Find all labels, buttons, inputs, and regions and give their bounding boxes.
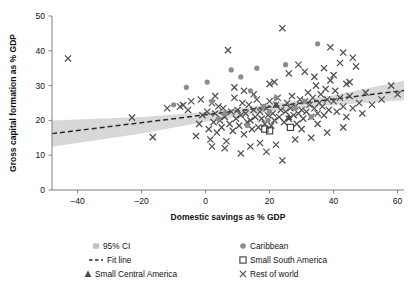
- marker-x: [332, 88, 338, 94]
- x-tick-label: 0: [203, 196, 208, 206]
- legend-label: 95% CI: [103, 241, 130, 251]
- marker-x: [212, 93, 218, 99]
- marker-circle: [283, 62, 288, 67]
- marker-x: [249, 126, 255, 132]
- legend-label: Caribbean: [250, 241, 289, 251]
- marker-x: [231, 84, 237, 90]
- marker-x: [343, 114, 349, 120]
- marker-circle: [293, 106, 298, 111]
- marker-x: [326, 107, 332, 113]
- marker-x: [188, 98, 194, 104]
- marker-x: [279, 25, 285, 31]
- marker-triangle: [85, 270, 92, 277]
- confidence-interval-band: [52, 81, 404, 147]
- marker-x: [222, 145, 228, 151]
- marker-x: [286, 70, 292, 76]
- marker-x: [323, 86, 329, 92]
- marker-x: [150, 134, 156, 140]
- marker-x: [308, 135, 314, 141]
- marker-x: [353, 63, 359, 69]
- marker-x: [302, 69, 308, 75]
- marker-x: [315, 121, 321, 127]
- marker-x: [238, 150, 244, 156]
- legend-item-small-south-america[interactable]: Small South America: [240, 255, 327, 265]
- y-tick-label: 40: [36, 46, 46, 56]
- legend-label: Fit line: [107, 255, 132, 265]
- marker-x: [241, 88, 247, 94]
- marker-x: [227, 121, 233, 127]
- marker-circle: [273, 95, 278, 100]
- marker-x: [331, 72, 337, 78]
- marker-x: [295, 62, 301, 68]
- marker-x: [313, 83, 319, 89]
- legend-item-caribbean[interactable]: Caribbean: [240, 241, 288, 251]
- marker-x: [292, 136, 298, 142]
- marker-x: [273, 142, 279, 148]
- marker-band: [93, 243, 99, 248]
- marker-x: [263, 149, 269, 155]
- marker-x: [299, 126, 305, 132]
- chart-canvas: 01020304050–40–200204060 Domestic saving…: [0, 0, 412, 290]
- x-tick-label: –20: [135, 196, 149, 206]
- marker-x: [230, 128, 236, 134]
- marker-x: [267, 81, 273, 87]
- marker-x: [350, 105, 356, 111]
- y-tick-label: 0: [40, 185, 45, 195]
- marker-circle: [222, 111, 227, 116]
- marker-x: [324, 129, 330, 135]
- marker-x: [219, 124, 225, 130]
- legend-label: Small South America: [250, 255, 327, 265]
- marker-x: [225, 47, 231, 53]
- marker-circle: [240, 243, 246, 249]
- y-tick-label: 50: [36, 11, 46, 21]
- marker-x: [350, 55, 356, 61]
- x-tick-label: 20: [265, 196, 275, 206]
- legend-item-95-ci[interactable]: 95% CI: [93, 241, 130, 251]
- marker-x: [259, 116, 265, 122]
- marker-x: [321, 65, 327, 71]
- legend-item-rest-of-world[interactable]: Rest of world: [240, 269, 299, 279]
- marker-square: [240, 257, 246, 263]
- marker-x: [206, 126, 212, 132]
- marker-circle: [238, 74, 243, 79]
- marker-circle: [302, 99, 307, 104]
- marker-x: [223, 138, 229, 144]
- x-tick-label: –40: [71, 196, 85, 206]
- legend-label: Small Central America: [95, 269, 177, 279]
- scatter-plot-figure: 01020304050–40–200204060 Domestic saving…: [0, 0, 412, 290]
- marker-x: [209, 143, 215, 149]
- marker-circle: [248, 88, 253, 93]
- marker-x: [300, 116, 306, 122]
- legend-item-small-central-america[interactable]: Small Central America: [85, 269, 178, 279]
- marker-x: [239, 100, 245, 106]
- marker-x: [65, 55, 71, 61]
- marker-x: [207, 136, 213, 142]
- marker-x: [340, 124, 346, 130]
- marker-x: [215, 103, 221, 109]
- marker-circle: [254, 66, 259, 71]
- legend-item-fit-line[interactable]: Fit line: [89, 255, 132, 265]
- ci-band-area: [52, 81, 404, 147]
- marker-circle: [267, 109, 272, 114]
- y-tick-label: 30: [36, 81, 46, 91]
- marker-x: [340, 49, 346, 55]
- legend: 95% CICaribbeanFit lineSmall South Ameri…: [85, 241, 328, 279]
- marker-x: [279, 157, 285, 163]
- marker-x: [337, 60, 343, 66]
- marker-circle: [171, 102, 176, 107]
- marker-x: [193, 133, 199, 139]
- x-axis-title: Domestic savings as % GDP: [171, 212, 286, 222]
- legend-label: Rest of world: [250, 269, 299, 279]
- y-axis-title: Gross capital formation as % GDP: [8, 34, 18, 172]
- marker-x: [198, 96, 204, 102]
- series-small-south-america: [262, 124, 294, 134]
- marker-circle: [309, 114, 314, 119]
- marker-circle: [205, 80, 210, 85]
- marker-x: [359, 110, 365, 116]
- marker-x: [257, 140, 263, 146]
- marker-x: [240, 271, 246, 277]
- y-tick-label: 20: [36, 115, 46, 125]
- marker-x: [315, 110, 321, 116]
- marker-circle: [184, 85, 189, 90]
- marker-circle: [216, 116, 221, 121]
